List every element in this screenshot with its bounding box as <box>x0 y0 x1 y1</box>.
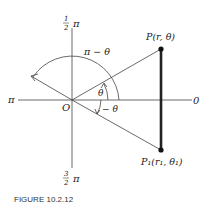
point-p <box>158 46 163 51</box>
polar-diagram: 1 2 π π 0 3 2 π O P(r, θ) P₁(r₁, θ₁) θ −… <box>0 0 210 210</box>
label-angle-neg-theta: − θ <box>102 104 118 114</box>
label-three-halves-num: 3 <box>64 170 69 178</box>
label-half-pi-den: 2 <box>63 24 69 32</box>
label-origin: O <box>62 102 70 113</box>
label-half-pi-num: 1 <box>64 15 68 23</box>
figure-caption: FIGURE 10.2.12 <box>14 195 74 204</box>
label-angle-pi-minus-theta: π − θ <box>83 46 110 57</box>
arc-theta <box>104 84 108 100</box>
label-three-halves-den: 2 <box>63 179 69 187</box>
label-point-p: P(r, θ) <box>145 31 175 42</box>
point-p1 <box>158 147 163 152</box>
arc-pi-minus-theta <box>33 56 119 100</box>
label-point-p1: P₁(r₁, θ₁) <box>140 156 183 167</box>
label-pi-left: π <box>7 94 15 105</box>
ray-pi-minus-theta <box>31 76 72 100</box>
arrowhead-pi-minus-theta <box>31 74 38 81</box>
label-half-pi-symbol: π <box>72 18 80 29</box>
label-zero-right: 0 <box>193 95 200 106</box>
label-angle-theta: θ <box>98 88 104 98</box>
label-three-halves-symbol: π <box>72 173 80 184</box>
